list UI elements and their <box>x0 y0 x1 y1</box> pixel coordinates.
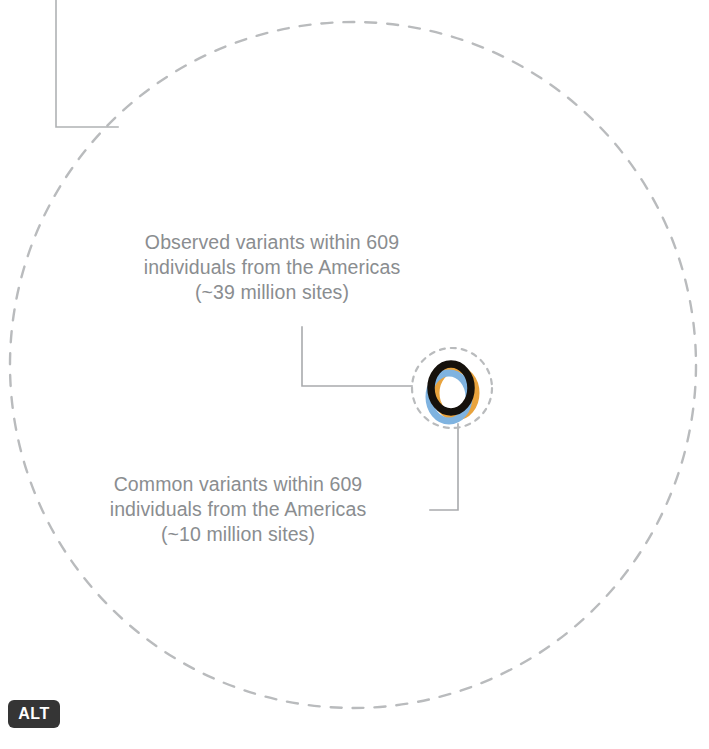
callout-observed-line-1: Observed variants within 609 <box>122 230 422 255</box>
callout-common-line-3: (~10 million sites) <box>58 522 418 547</box>
figure-graphics <box>0 0 709 749</box>
observed-leader-line <box>302 327 412 386</box>
top-left-bracket-leader <box>56 0 118 127</box>
outer-dashed-circle <box>10 22 696 708</box>
core-ring-cluster <box>429 364 476 421</box>
figure-canvas: Observed variants within 609 individuals… <box>0 0 709 749</box>
alt-badge: ALT <box>8 700 60 728</box>
callout-common-line-1: Common variants within 609 <box>58 472 418 497</box>
callout-observed-variants: Observed variants within 609 individuals… <box>122 230 422 305</box>
callout-observed-line-2: individuals from the Americas <box>122 255 422 280</box>
callout-common-variants: Common variants within 609 individuals f… <box>58 472 418 547</box>
common-leader-line <box>430 424 458 510</box>
callout-observed-line-3: (~39 million sites) <box>122 280 422 305</box>
callout-common-line-2: individuals from the Americas <box>58 497 418 522</box>
